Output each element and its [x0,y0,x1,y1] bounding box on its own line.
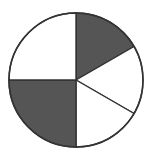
fraction-circle-diagram [0,0,150,164]
unshaded-sector [9,13,76,80]
shaded-sector [9,80,76,147]
